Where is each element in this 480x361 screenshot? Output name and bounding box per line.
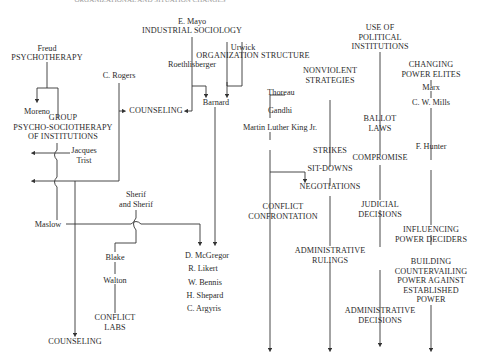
node-group-psycho: GROUP PSYCHO-SOCIOTHERAPY OF INSTITUTION… (13, 113, 112, 142)
node-roethlisberger: Roethlisberger (168, 60, 216, 70)
node-industrial-sociology: INDUSTRIAL SOCIOLOGY (142, 26, 242, 36)
node-changing-power-elites: CHANGING POWER ELITES (401, 60, 460, 79)
node-political-institutions: USE OF POLITICAL INSTITUTIONS (351, 23, 408, 52)
node-ballot-laws: BALLOT LAWS (364, 114, 397, 133)
node-cw-mills: C. W. Mills (412, 98, 450, 108)
node-counseling-top: COUNSELING (129, 106, 182, 116)
node-psychotherapy: PSYCHOTHERAPY (11, 53, 82, 63)
node-maslow: Maslow (35, 220, 61, 230)
node-administrative-rulings: ADMINISTRATIVE RULINGS (295, 246, 366, 265)
node-organization-structure: ORGANIZATION STRUCTURE (196, 51, 309, 61)
node-building-power: BUILDING COUNTERVAILING POWER AGAINST ES… (395, 257, 467, 305)
node-marx: Marx (422, 83, 440, 93)
node-barnard: Barnard (203, 98, 229, 108)
person-likert: R. Likert (188, 264, 218, 274)
node-judicial-decisions: JUDICIAL DECISIONS (358, 200, 402, 219)
person-argyris: C. Argyris (187, 304, 221, 314)
person-shepard: H. Shepard (187, 291, 224, 301)
node-counseling-bottom: COUNSELING (48, 337, 101, 347)
node-administrative-decisions: ADMINISTRATIVE DECISIONS (345, 306, 416, 325)
node-sit-downs: SIT-DOWNS (307, 164, 352, 174)
node-strikes: STRIKES (313, 146, 347, 156)
node-c-rogers: C. Rogers (103, 71, 136, 81)
node-conflict-labs: CONFLICT LABS (95, 313, 136, 332)
node-conflict-confrontation: CONFLICT CONFRONTATION (248, 202, 317, 221)
node-influencing-power: INFLUENCING POWER DECIDERS (395, 225, 467, 244)
node-gandhi: Gandhi (268, 106, 292, 116)
node-thoreau: Thoreau (267, 88, 294, 98)
node-f-hunter: F. Hunter (416, 142, 447, 152)
person-bennis: W. Bennis (188, 278, 222, 288)
node-compromise: COMPROMISE (352, 153, 407, 163)
person-mcgregor: D. McGregor (185, 251, 229, 261)
node-mlk: Martin Luther King Jr. (243, 123, 317, 133)
node-walton: Walton (103, 276, 126, 286)
node-nonviolent: NONVIOLENT STRATEGIES (303, 66, 357, 85)
node-sherif: Sherif and Sherif (119, 190, 153, 209)
node-negotiations: NEGOTIATIONS (300, 182, 361, 192)
node-blake: Blake (105, 253, 124, 263)
node-jacques-trist: Jacques Trist (71, 146, 96, 165)
